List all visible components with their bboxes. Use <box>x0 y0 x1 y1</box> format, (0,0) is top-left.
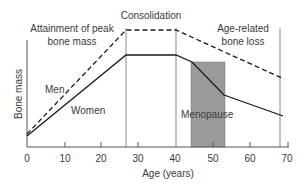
y-axis-label: Bone mass <box>13 69 24 119</box>
svg-text:40: 40 <box>169 153 181 164</box>
phase-peak-label-1: Attainment of peak <box>30 23 114 34</box>
women-label: Women <box>71 105 105 116</box>
x-tick-labels: 0 10 20 30 40 50 60 70 <box>24 153 293 164</box>
women-line <box>27 55 283 136</box>
menopause-region <box>191 62 225 147</box>
x-axis-label: Age (years) <box>142 168 194 179</box>
phase-loss-label-1: Age-related <box>217 23 269 34</box>
svg-text:0: 0 <box>24 153 30 164</box>
phase-peak-label-2: bone mass <box>48 36 97 47</box>
svg-text:70: 70 <box>281 153 293 164</box>
men-label: Men <box>45 84 64 95</box>
svg-text:60: 60 <box>244 153 256 164</box>
svg-text:30: 30 <box>132 153 144 164</box>
svg-text:10: 10 <box>59 153 71 164</box>
svg-text:20: 20 <box>95 153 107 164</box>
menopause-label: Menopause <box>181 109 234 120</box>
phase-loss-label-2: bone loss <box>222 36 265 47</box>
bone-mass-chart: 0 10 20 30 40 50 60 70 Age (years) Bone … <box>0 0 308 187</box>
svg-text:50: 50 <box>207 153 219 164</box>
phase-consolidation-label: Consolidation <box>121 10 182 21</box>
